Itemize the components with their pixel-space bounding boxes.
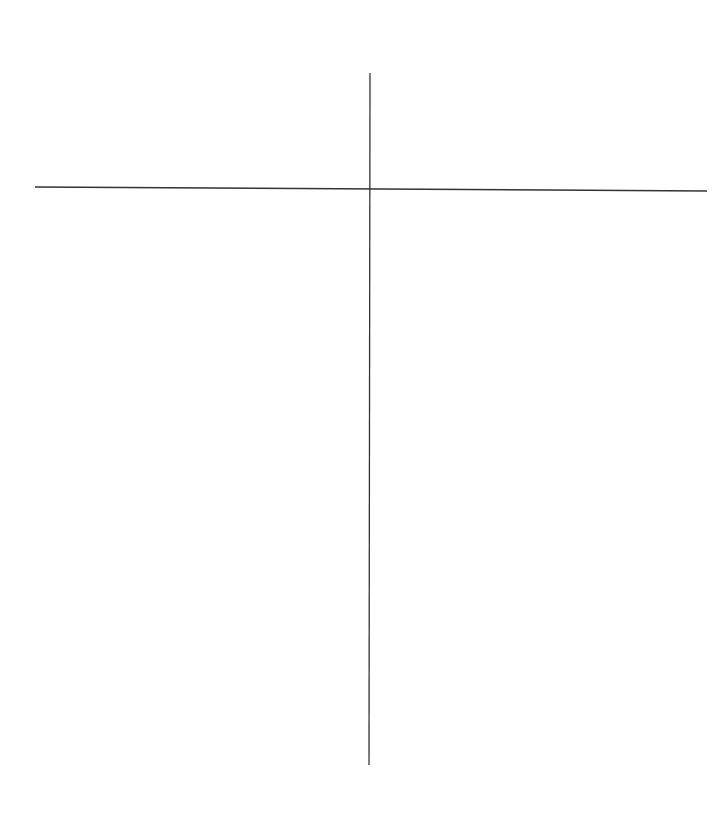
t-chart-horizontal-divider: [35, 187, 707, 191]
t-chart-vertical-divider: [369, 73, 370, 765]
t-chart-diagram: [0, 0, 715, 840]
